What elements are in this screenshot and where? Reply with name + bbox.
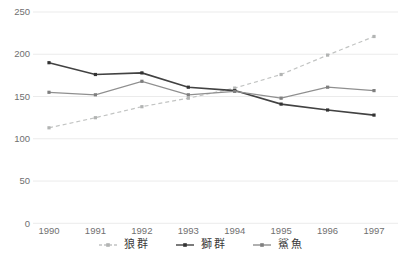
legend-solid-line-icon (253, 240, 271, 250)
x-axis-tick-label-1991: 1991 (85, 225, 106, 236)
legend-item-wolf-pack[interactable]: 狼群 (99, 239, 150, 250)
series-marker-lion-pride (140, 71, 143, 74)
series-marker-wolf-pack (94, 116, 97, 119)
series-marker-shark (372, 89, 375, 92)
series-marker-lion-pride (47, 61, 50, 64)
series-marker-shark (187, 93, 190, 96)
series-line-wolf-pack (49, 37, 374, 128)
series-marker-lion-pride (187, 86, 190, 89)
y-axis-tick-label-150: 150 (14, 91, 30, 102)
series-marker-wolf-pack (47, 126, 50, 129)
series-marker-shark (94, 93, 97, 96)
x-axis-tick-label-1995: 1995 (271, 225, 292, 236)
y-axis-tick-label-100: 100 (14, 133, 30, 144)
series-marker-lion-pride (280, 103, 283, 106)
series-marker-wolf-pack (280, 73, 283, 76)
x-axis-tick-label-1990: 1990 (38, 225, 59, 236)
x-axis-tick-label-1996: 1996 (317, 225, 338, 236)
legend-label-wolf-pack: 狼群 (124, 239, 150, 250)
legend-label-shark: 鯊魚 (278, 239, 304, 250)
series-marker-lion-pride (326, 108, 329, 111)
chart-plot-area: 0501001502002501990199119921993199419951… (0, 0, 402, 275)
x-axis-tick-label-1997: 1997 (363, 225, 384, 236)
series-line-shark (49, 81, 374, 98)
y-axis-tick-label-200: 200 (14, 48, 30, 59)
series-marker-shark (280, 97, 283, 100)
legend-item-shark[interactable]: 鯊魚 (253, 239, 304, 250)
series-marker-shark (140, 80, 143, 83)
series-marker-lion-pride (94, 73, 97, 76)
legend-item-lion-pride[interactable]: 獅群 (176, 239, 227, 250)
series-marker-lion-pride (372, 114, 375, 117)
series-line-lion-pride (49, 63, 374, 115)
legend-label-lion-pride: 獅群 (201, 239, 227, 250)
series-marker-shark (233, 90, 236, 93)
y-axis-tick-label-50: 50 (19, 175, 30, 186)
series-marker-wolf-pack (326, 54, 329, 57)
series-marker-wolf-pack (140, 105, 143, 108)
chart-legend: 狼群獅群鯊魚 (0, 239, 402, 250)
y-axis-tick-label-0: 0 (25, 218, 30, 229)
legend-dashed-line-icon (99, 240, 117, 250)
x-axis-tick-label-1993: 1993 (178, 225, 199, 236)
line-chart: 0501001502002501990199119921993199419951… (0, 0, 402, 275)
series-marker-wolf-pack (372, 35, 375, 38)
series-marker-shark (47, 91, 50, 94)
x-axis-tick-label-1994: 1994 (224, 225, 245, 236)
series-marker-shark (326, 86, 329, 89)
series-marker-wolf-pack (187, 97, 190, 100)
x-axis-tick-label-1992: 1992 (131, 225, 152, 236)
y-axis-tick-label-250: 250 (14, 6, 30, 17)
legend-solid-line-icon (176, 240, 194, 250)
